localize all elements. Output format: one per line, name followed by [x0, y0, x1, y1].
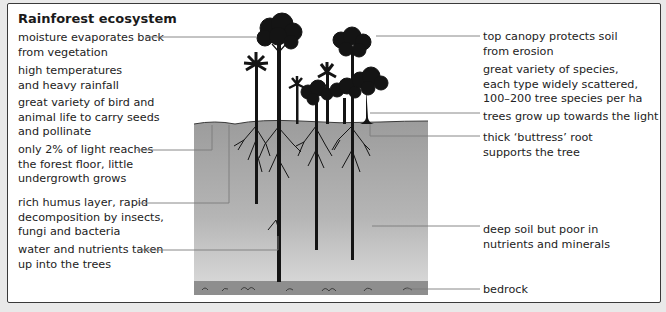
ecosystem-illustration — [0, 0, 666, 312]
tree-palm-small — [289, 76, 305, 124]
bedrock-layer — [194, 281, 428, 295]
